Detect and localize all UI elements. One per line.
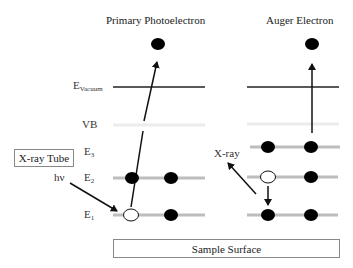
vacuum-label-sub: Vacuum <box>80 85 103 93</box>
auger-electron-title: Auger Electron <box>266 14 334 26</box>
e2-label-sub: 2 <box>91 177 95 185</box>
right-e1-electron-2 <box>304 209 318 221</box>
e2-label: E2 <box>84 172 94 185</box>
right-e1-electron-1 <box>261 209 275 221</box>
vb-label: VB <box>82 119 97 130</box>
diagram-canvas <box>0 0 353 268</box>
vacuum-level-label: EVacuum <box>73 80 103 93</box>
e2-label-main: E <box>84 171 91 183</box>
hv-arrow <box>70 183 117 211</box>
e1-label-sub: 1 <box>91 214 95 222</box>
photoelectron-path-upper <box>144 62 157 121</box>
sample-surface-box: Sample Surface <box>113 239 340 258</box>
e3-label-sub: 3 <box>91 151 95 159</box>
right-e3-electron-1 <box>261 141 275 153</box>
e1-label-main: E <box>84 208 91 220</box>
ejected-photoelectron <box>151 38 165 50</box>
primary-photoelectron-title: Primary Photoelectron <box>106 14 205 26</box>
left-e1-electron <box>164 209 178 221</box>
e1-label: E1 <box>84 209 94 222</box>
hv-label: hν <box>54 172 64 183</box>
xray-tube-box: X-ray Tube <box>14 149 74 167</box>
left-e2-electron-2 <box>164 172 178 184</box>
left-e1-hole <box>124 209 139 221</box>
vacuum-label-main: E <box>73 79 80 91</box>
right-e2-electron <box>304 171 318 183</box>
e3-label-main: E <box>84 145 91 157</box>
left-e2-electron-1 <box>125 172 139 184</box>
xps-auger-diagram: Primary Photoelectron Auger Electron EVa… <box>0 0 353 268</box>
right-e3-electron-2 <box>304 141 318 153</box>
photoelectron-path-lower <box>131 131 143 207</box>
right-e2-hole <box>261 171 276 183</box>
e3-label: E3 <box>84 146 94 159</box>
xray-label: X-ray <box>214 148 240 159</box>
ejected-auger-electron <box>305 38 319 50</box>
